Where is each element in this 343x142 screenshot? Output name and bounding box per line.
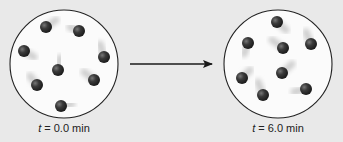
caption-value: = 0.0 min xyxy=(41,122,90,134)
gas-particle xyxy=(73,25,85,37)
gas-particle xyxy=(257,89,269,101)
gas-particle xyxy=(271,16,283,28)
gas-particle xyxy=(52,64,64,76)
gas-particle xyxy=(31,79,43,91)
caption-final: t = 6.0 min xyxy=(218,122,338,134)
gas-particle xyxy=(277,42,289,54)
container-initial xyxy=(10,10,118,118)
caption-value: = 6.0 min xyxy=(255,122,304,134)
gas-particle xyxy=(236,72,248,84)
gas-particle xyxy=(242,37,254,49)
gas-particle xyxy=(305,38,317,50)
gas-particle xyxy=(40,21,52,33)
gas-particle xyxy=(55,100,67,112)
gas-particle xyxy=(98,51,110,63)
caption-initial: t = 0.0 min xyxy=(4,122,124,134)
gas-particle xyxy=(18,45,30,57)
gas-particle xyxy=(300,83,312,95)
container-final xyxy=(224,10,332,118)
gas-particle xyxy=(88,74,100,86)
diagram-canvas xyxy=(0,0,343,142)
gas-particle xyxy=(276,67,288,79)
